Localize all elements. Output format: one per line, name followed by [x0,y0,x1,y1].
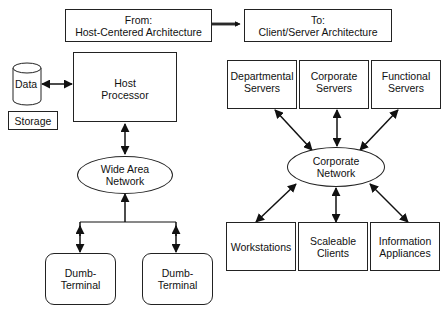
departmental-servers-box: Departmental Servers [227,60,297,109]
functional-servers-box: Functional Servers [371,60,441,109]
corporate-network-ellipse: Corporate Network [287,147,385,187]
dumb-terminal-1: Dumb- Terminal [45,253,116,305]
information-appliances-box: Information Appliances [370,222,440,271]
to-architecture-box: To: Client/Server Architecture [244,9,392,42]
wide-area-network-ellipse: Wide Area Network [77,156,173,194]
departmental-network-link [275,110,312,150]
from-label: From: [125,14,152,26]
functional-network-link [360,110,398,150]
scaleable-clients-box: Scaleable Clients [298,222,368,271]
to-title: Client/Server Architecture [258,26,377,38]
host-processor-box: Host Processor [73,52,177,122]
to-label: To: [311,14,325,26]
data-label: Data [15,78,37,90]
dumb-terminal-2: Dumb- Terminal [142,253,213,305]
corporate-servers-box: Corporate Servers [299,60,369,109]
storage-caption: Storage [8,111,58,130]
from-title: Host-Centered Architecture [75,26,202,38]
workstations-box: Workstations [226,222,296,271]
from-architecture-box: From: Host-Centered Architecture [65,9,212,42]
network-workstations-link [256,184,296,222]
network-appliances-link [370,184,408,222]
